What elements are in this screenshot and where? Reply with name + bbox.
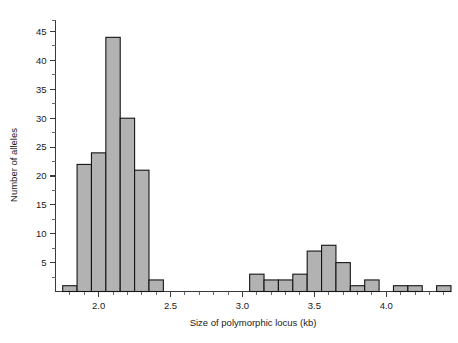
x-axis-ticks: 2.02.53.03.54.0 [70,292,444,311]
histogram-bars [63,37,451,291]
histogram-bar [120,118,134,291]
histogram-bar [350,286,364,292]
y-axis-ticks: 51015202530354045 [36,20,56,277]
histogram-bar [393,286,407,292]
histogram-bar [408,286,422,292]
histogram-bar [91,153,105,292]
x-tick-label: 3.5 [308,300,321,311]
histogram-bar [322,245,336,291]
x-axis-title: Size of polymorphic locus (kb) [190,317,317,328]
y-tick-label: 25 [36,141,47,152]
histogram-bar [250,274,264,291]
x-tick-label: 3.0 [236,300,249,311]
histogram-bar [293,274,307,291]
y-tick-label: 40 [36,55,47,66]
histogram-bar [437,286,451,292]
histogram-bar [135,170,149,291]
histogram-plot-area: 51015202530354045 2.02.53.03.54.0 Size o… [0,0,458,343]
y-tick-label: 30 [36,113,47,124]
y-tick-label: 45 [36,26,47,37]
y-tick-label: 20 [36,170,47,181]
histogram-bar [106,37,120,291]
histogram-bar [278,280,292,292]
x-tick-label: 2.0 [92,300,105,311]
histogram-bar [149,280,163,292]
histogram-bar [336,263,350,292]
histogram-bar [307,251,321,291]
histogram-bar [264,280,278,292]
y-axis-title: Number of alleles [8,128,19,202]
y-tick-label: 10 [36,228,47,239]
y-tick-label: 35 [36,84,47,95]
histogram-figure: 51015202530354045 2.02.53.03.54.0 Size o… [0,0,458,343]
y-tick-label: 15 [36,199,47,210]
y-tick-label: 5 [41,257,46,268]
histogram-bar [365,280,379,292]
histogram-bar [77,164,91,291]
x-tick-label: 2.5 [164,300,177,311]
x-tick-label: 4.0 [380,300,393,311]
histogram-bar [63,286,77,292]
